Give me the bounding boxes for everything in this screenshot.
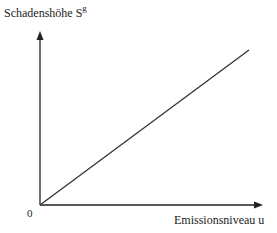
y-axis-label: Schadenshöhe Sg bbox=[4, 4, 87, 21]
origin-label: 0 bbox=[27, 207, 33, 219]
chart-canvas bbox=[0, 0, 277, 233]
y-axis-label-superscript: g bbox=[82, 3, 87, 13]
y-axis-arrowhead-icon bbox=[37, 31, 44, 40]
x-axis-label: Emissionsniveau u bbox=[174, 213, 264, 228]
damage-function-line bbox=[40, 50, 249, 205]
y-axis-label-text: Schadenshöhe S bbox=[4, 6, 82, 20]
x-axis-arrowhead-icon bbox=[254, 202, 263, 209]
